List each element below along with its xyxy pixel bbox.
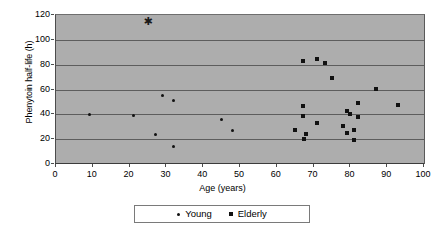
y-tick-mark (51, 113, 54, 114)
x-tick-mark (239, 164, 240, 167)
data-point-elderly (352, 138, 356, 142)
gridline (56, 40, 424, 41)
legend-entry-elderly: Elderly (229, 209, 267, 219)
x-tick-label: 20 (117, 169, 141, 179)
data-point-elderly (348, 112, 352, 116)
data-point-elderly (356, 101, 360, 105)
data-point-young (161, 94, 164, 97)
data-point-elderly (301, 104, 305, 108)
x-tick-mark (129, 164, 130, 167)
data-point-young (172, 145, 175, 148)
x-tick-label: 30 (153, 169, 177, 179)
gridline (56, 114, 424, 115)
gridline (56, 65, 424, 66)
x-tick-label: 70 (301, 169, 325, 179)
y-tick-label: 0 (28, 159, 50, 168)
x-tick-mark (202, 164, 203, 167)
diamond-marker-icon (177, 213, 180, 216)
data-point-elderly (330, 76, 334, 80)
x-tick-mark (92, 164, 93, 167)
data-point-young (88, 113, 91, 116)
data-point-elderly (302, 137, 306, 141)
y-tick-mark (51, 163, 54, 164)
data-point-elderly (304, 132, 308, 136)
x-tick-label: 50 (227, 169, 251, 179)
y-axis-tick-labels: 020406080100120 (28, 0, 50, 231)
data-point-elderly (352, 128, 356, 132)
data-point-young (172, 99, 175, 102)
data-point-elderly (293, 128, 297, 132)
data-point-elderly (315, 121, 319, 125)
legend-entry-young: Young (177, 209, 212, 219)
data-point-young (231, 129, 234, 132)
x-axis-title: Age (years) (0, 183, 445, 193)
x-tick-mark (165, 164, 166, 167)
chart-legend: YoungElderly (134, 205, 310, 223)
y-tick-label: 100 (28, 34, 50, 43)
x-tick-mark (276, 164, 277, 167)
y-tick-mark (51, 14, 54, 15)
data-point-elderly (301, 59, 305, 63)
y-tick-mark (51, 39, 54, 40)
x-tick-mark (313, 164, 314, 167)
x-tick-mark (55, 164, 56, 167)
x-tick-label: 60 (264, 169, 288, 179)
legend-label: Elderly (238, 209, 267, 219)
data-point-elderly (356, 115, 360, 119)
gridline (56, 90, 424, 91)
scatter-chart-figure: Phenytoin half-life (h) 020406080100120 … (0, 0, 445, 231)
y-tick-label: 120 (28, 10, 50, 19)
y-tick-label: 40 (28, 109, 50, 118)
y-tick-mark (51, 138, 54, 139)
square-marker-icon (229, 212, 233, 216)
x-tick-mark (423, 164, 424, 167)
x-tick-mark (349, 164, 350, 167)
data-point-elderly (374, 87, 378, 91)
data-point-elderly (323, 61, 327, 65)
data-point-elderly (345, 131, 349, 135)
gridline (56, 139, 424, 140)
x-tick-label: 100 (411, 169, 435, 179)
data-point-elderly (315, 57, 319, 61)
x-tick-label: 90 (374, 169, 398, 179)
data-point-outlier: ✱ (144, 17, 153, 26)
y-tick-label: 20 (28, 134, 50, 143)
x-tick-mark (386, 164, 387, 167)
legend-label: Young (185, 209, 212, 219)
data-point-young (132, 114, 135, 117)
x-tick-label: 10 (80, 169, 104, 179)
data-point-elderly (301, 114, 305, 118)
data-point-young (154, 133, 157, 136)
x-tick-label: 0 (43, 169, 67, 179)
y-tick-label: 60 (28, 84, 50, 93)
y-tick-label: 80 (28, 59, 50, 68)
x-tick-label: 80 (337, 169, 361, 179)
x-tick-label: 40 (190, 169, 214, 179)
data-point-elderly (396, 103, 400, 107)
y-tick-mark (51, 89, 54, 90)
y-tick-mark (51, 64, 54, 65)
data-point-young (220, 118, 223, 121)
data-point-elderly (341, 124, 345, 128)
plot-area: ✱ (55, 14, 425, 164)
